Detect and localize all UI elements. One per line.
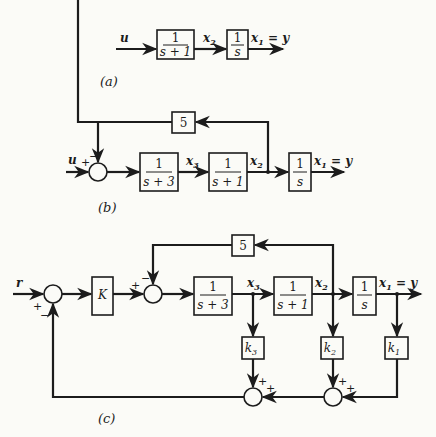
sum-k3-plus-right: +	[266, 382, 275, 395]
signal-x2: x2	[202, 31, 216, 47]
block-1-over-s-plus-1: 1 s + 1	[157, 30, 194, 59]
svg-text:1: 1	[155, 157, 163, 171]
svg-text:1: 1	[296, 157, 304, 171]
input-label-u: u	[120, 31, 129, 45]
block-1-over-s: 1 s	[289, 153, 311, 191]
feedback-gain-5: 5	[232, 235, 254, 256]
feedback-gain-5: 5	[172, 112, 195, 133]
svg-text:1: 1	[289, 280, 297, 294]
block-1-over-s: 1 s	[353, 277, 376, 315]
signal-x2: x2	[249, 154, 263, 170]
gain-block-k3: k3	[242, 337, 264, 359]
summing-junction	[89, 163, 107, 181]
sum-k2-plus-right: +	[346, 382, 355, 395]
gain-block-k2: k2	[321, 337, 343, 359]
svg-text:5: 5	[239, 239, 247, 253]
summing-junction-1	[44, 285, 62, 303]
panel-c: r + − K + − 1 s + 3 x3 1	[13, 235, 421, 426]
summing-junction-k3	[244, 388, 262, 406]
svg-text:s: s	[234, 45, 240, 59]
svg-text:s + 3: s + 3	[143, 175, 175, 189]
svg-text:K: K	[97, 288, 108, 302]
signal-x2: x2	[314, 276, 328, 292]
gain-block-k: K	[92, 277, 113, 315]
panel-label-c: (c)	[98, 411, 115, 426]
gain-block-k1: k1	[385, 337, 408, 359]
signal-x1-eq-y: x1 = y	[378, 276, 418, 292]
signal-x1-eq-y: x1 = y	[250, 31, 290, 47]
svg-text:1: 1	[224, 157, 232, 171]
sum-minus-sign: −	[89, 150, 98, 163]
block-1-over-s-plus-3: 1 s + 3	[140, 153, 178, 191]
sum1-minus-sign: −	[40, 309, 49, 322]
svg-text:s: s	[297, 175, 303, 189]
svg-text:s + 1: s + 1	[277, 298, 308, 312]
summing-junction-k2-k1	[324, 388, 342, 406]
svg-text:5: 5	[180, 116, 188, 130]
input-label-r: r	[16, 276, 24, 290]
summing-junction-2	[144, 285, 162, 303]
block-1-over-s: 1 s	[227, 30, 248, 59]
svg-text:1: 1	[172, 31, 180, 45]
sum2-minus-sign: −	[141, 272, 150, 285]
svg-text:1: 1	[209, 280, 217, 294]
state-feedback-path	[53, 304, 244, 397]
block-1-over-s-plus-1: 1 s + 1	[274, 277, 312, 315]
svg-text:1: 1	[234, 31, 242, 45]
svg-text:s + 1: s + 1	[160, 45, 191, 59]
signal-x3: x3	[246, 276, 260, 292]
svg-text:s: s	[361, 298, 367, 312]
block-1-over-s-plus-1: 1 s + 1	[209, 153, 247, 191]
svg-text:1: 1	[361, 280, 369, 294]
block-1-over-s-plus-3: 1 s + 3	[194, 277, 232, 315]
panel-label-a: (a)	[100, 74, 118, 89]
signal-x1-eq-y: x1 = y	[313, 154, 353, 170]
svg-text:s + 1: s + 1	[212, 175, 243, 189]
panel-a: u 1 s + 1 x2 1 s x1 = y (a)	[100, 30, 290, 89]
sum2-plus-sign: +	[131, 279, 140, 292]
block-diagram: u 1 s + 1 x2 1 s x1 = y (a) u + −	[0, 0, 436, 437]
signal-x3: x3	[185, 154, 199, 170]
panel-label-b: (b)	[98, 200, 116, 215]
input-label-u: u	[68, 153, 77, 167]
svg-text:s + 3: s + 3	[197, 298, 229, 312]
